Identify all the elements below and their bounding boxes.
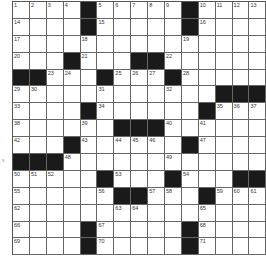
grid-cell[interactable]: 42 (13, 137, 30, 154)
grid-cell[interactable] (233, 120, 250, 137)
grid-cell[interactable]: 70 (97, 238, 114, 255)
grid-cell[interactable] (148, 238, 165, 255)
grid-cell[interactable]: 53 (114, 171, 131, 188)
grid-cell[interactable]: 48 (64, 154, 81, 171)
grid-cell[interactable] (165, 205, 182, 222)
grid-cell[interactable] (64, 238, 81, 255)
grid-cell[interactable] (148, 171, 165, 188)
grid-cell[interactable]: 68 (199, 222, 216, 239)
grid-cell[interactable] (114, 86, 131, 103)
grid-cell[interactable]: 43 (81, 137, 98, 154)
grid-cell[interactable] (249, 19, 266, 36)
grid-cell[interactable]: 17 (13, 36, 30, 53)
grid-cell[interactable]: 37 (249, 103, 266, 120)
grid-cell[interactable] (131, 36, 148, 53)
grid-cell[interactable] (148, 19, 165, 36)
grid-cell[interactable]: 11 (216, 2, 233, 19)
grid-cell[interactable]: 36 (233, 103, 250, 120)
grid-cell[interactable] (47, 86, 64, 103)
grid-cell[interactable] (148, 222, 165, 239)
grid-cell[interactable] (30, 238, 47, 255)
grid-cell[interactable]: 19 (182, 36, 199, 53)
grid-cell[interactable]: 35 (216, 103, 233, 120)
grid-cell[interactable] (81, 205, 98, 222)
grid-cell[interactable] (30, 19, 47, 36)
grid-cell[interactable] (165, 36, 182, 53)
grid-cell[interactable] (30, 188, 47, 205)
grid-cell[interactable]: 39 (81, 120, 98, 137)
grid-cell[interactable] (64, 222, 81, 239)
grid-cell[interactable]: 30 (30, 86, 47, 103)
grid-cell[interactable] (47, 120, 64, 137)
grid-cell[interactable] (114, 103, 131, 120)
grid-cell[interactable] (216, 222, 233, 239)
grid-cell[interactable] (64, 120, 81, 137)
grid-cell[interactable] (199, 86, 216, 103)
grid-cell[interactable]: 67 (97, 222, 114, 239)
grid-cell[interactable] (216, 205, 233, 222)
grid-cell[interactable] (97, 120, 114, 137)
grid-cell[interactable]: 49 (165, 154, 182, 171)
grid-cell[interactable] (233, 19, 250, 36)
grid-cell[interactable] (30, 53, 47, 70)
grid-cell[interactable]: 45 (131, 137, 148, 154)
grid-cell[interactable] (233, 238, 250, 255)
grid-cell[interactable] (30, 137, 47, 154)
grid-cell[interactable]: 58 (165, 188, 182, 205)
grid-cell[interactable] (216, 120, 233, 137)
grid-cell[interactable] (30, 222, 47, 239)
grid-cell[interactable] (47, 222, 64, 239)
grid-cell[interactable]: 20 (13, 53, 30, 70)
grid-cell[interactable] (97, 205, 114, 222)
grid-cell[interactable] (97, 36, 114, 53)
grid-cell[interactable] (30, 36, 47, 53)
grid-cell[interactable] (30, 103, 47, 120)
grid-cell[interactable] (114, 154, 131, 171)
grid-cell[interactable] (97, 154, 114, 171)
grid-cell[interactable] (97, 53, 114, 70)
grid-cell[interactable]: 24 (64, 70, 81, 87)
grid-cell[interactable]: 29 (13, 86, 30, 103)
grid-cell[interactable]: 56 (97, 188, 114, 205)
grid-cell[interactable] (165, 238, 182, 255)
grid-cell[interactable]: 33 (13, 103, 30, 120)
grid-cell[interactable] (199, 171, 216, 188)
grid-cell[interactable] (182, 188, 199, 205)
grid-cell[interactable]: 28 (182, 70, 199, 87)
grid-cell[interactable] (47, 188, 64, 205)
grid-cell[interactable] (216, 19, 233, 36)
grid-cell[interactable] (165, 19, 182, 36)
grid-cell[interactable] (182, 205, 199, 222)
grid-cell[interactable] (64, 171, 81, 188)
grid-cell[interactable] (64, 188, 81, 205)
grid-cell[interactable] (47, 36, 64, 53)
grid-cell[interactable] (47, 238, 64, 255)
grid-cell[interactable] (165, 103, 182, 120)
grid-cell[interactable] (81, 70, 98, 87)
grid-cell[interactable] (64, 103, 81, 120)
grid-cell[interactable]: 27 (148, 70, 165, 87)
grid-cell[interactable] (216, 70, 233, 87)
grid-cell[interactable]: 31 (97, 86, 114, 103)
grid-cell[interactable] (114, 238, 131, 255)
grid-cell[interactable]: 66 (13, 222, 30, 239)
grid-cell[interactable] (216, 171, 233, 188)
grid-cell[interactable] (131, 154, 148, 171)
grid-cell[interactable] (249, 53, 266, 70)
grid-cell[interactable]: 38 (13, 120, 30, 137)
grid-cell[interactable] (30, 120, 47, 137)
grid-cell[interactable] (165, 222, 182, 239)
grid-cell[interactable]: 26 (131, 70, 148, 87)
grid-cell[interactable] (233, 70, 250, 87)
grid-cell[interactable] (114, 19, 131, 36)
grid-cell[interactable]: 2 (30, 2, 47, 19)
grid-cell[interactable]: 22 (165, 53, 182, 70)
grid-cell[interactable] (182, 103, 199, 120)
grid-cell[interactable]: 59 (216, 188, 233, 205)
grid-cell[interactable]: 40 (165, 120, 182, 137)
grid-cell[interactable] (216, 53, 233, 70)
grid-cell[interactable] (165, 137, 182, 154)
grid-cell[interactable] (64, 86, 81, 103)
grid-cell[interactable] (182, 154, 199, 171)
grid-cell[interactable] (131, 238, 148, 255)
